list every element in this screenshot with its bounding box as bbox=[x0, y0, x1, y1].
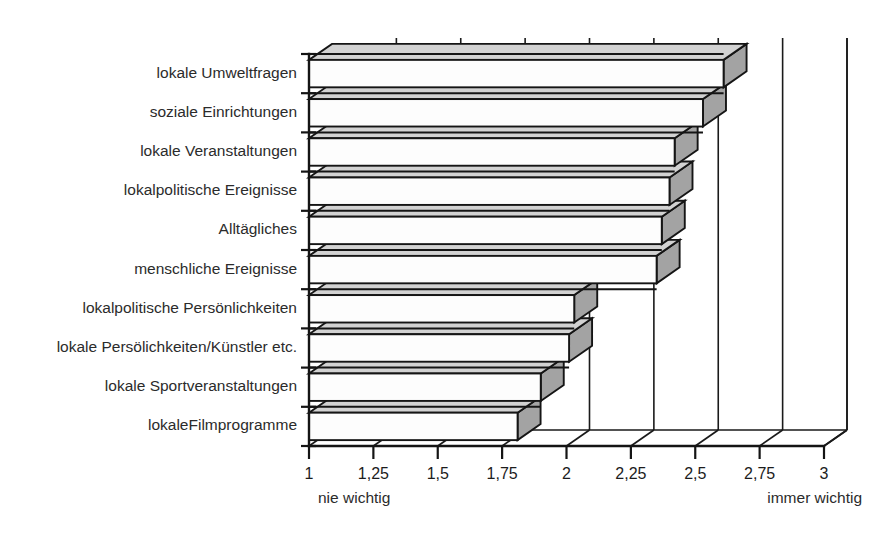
category-label-1: lokale Umweltfragen bbox=[157, 64, 297, 81]
bar-2 bbox=[309, 83, 726, 126]
bar-1 bbox=[309, 44, 747, 87]
category-label-8: lokale Persölichkeiten/Künstler etc. bbox=[57, 338, 297, 355]
x-tick-label-4: 1,75 bbox=[487, 465, 518, 482]
scale-anchor-right-label: immer wichtig bbox=[767, 489, 862, 506]
bar-10 bbox=[309, 397, 541, 440]
x-tick-label-2: 1,25 bbox=[358, 465, 389, 482]
category-label-9: lokale Sportveranstaltungen bbox=[105, 377, 297, 394]
x-tick-labels: 11,251,51,7522,252,52,753 bbox=[305, 465, 829, 482]
category-label-6: menschliche Ereignisse bbox=[134, 260, 297, 277]
x-tick-label-1: 1 bbox=[305, 465, 314, 482]
x-axis bbox=[309, 446, 824, 459]
scale-anchor-left-label: nie wichtig bbox=[318, 489, 390, 506]
chart-canvas: lokale Umweltfragensoziale Einrichtungen… bbox=[0, 0, 880, 541]
category-label-10: lokaleFilmprogramme bbox=[148, 416, 297, 433]
bar-front-face bbox=[309, 413, 518, 440]
grid-line bbox=[824, 38, 847, 446]
bar-front-face bbox=[309, 99, 703, 126]
bar-front-face bbox=[309, 60, 724, 87]
bar-6 bbox=[309, 240, 680, 283]
category-label-3: lokale Veranstaltungen bbox=[140, 142, 297, 159]
bar-9 bbox=[309, 357, 564, 400]
x-tick-label-3: 1,5 bbox=[427, 465, 449, 482]
bar-front-face bbox=[309, 256, 657, 283]
bar-series bbox=[309, 44, 747, 440]
category-label-7: lokalpolitische Persönlichkeiten bbox=[82, 299, 297, 316]
bar-7 bbox=[309, 279, 597, 322]
x-tick-label-7: 2,5 bbox=[684, 465, 706, 482]
bar-8 bbox=[309, 318, 592, 361]
bar-top-face bbox=[309, 44, 747, 60]
bar-front-face bbox=[309, 217, 662, 244]
bar-3 bbox=[309, 122, 698, 165]
bar-front-face bbox=[309, 373, 541, 400]
bar-chart-figure: lokale Umweltfragensoziale Einrichtungen… bbox=[0, 0, 880, 541]
bar-front-face bbox=[309, 138, 675, 165]
bar-4 bbox=[309, 161, 693, 204]
x-tick-label-8: 2,75 bbox=[744, 465, 775, 482]
bar-front-face bbox=[309, 334, 569, 361]
x-tick-label-9: 3 bbox=[820, 465, 829, 482]
category-label-4: lokalpolitische Ereignisse bbox=[124, 181, 297, 198]
category-axis-labels: lokale Umweltfragensoziale Einrichtungen… bbox=[57, 64, 298, 434]
category-label-2: soziale Einrichtungen bbox=[150, 103, 297, 120]
bar-5 bbox=[309, 201, 685, 244]
x-tick-label-5: 2 bbox=[562, 465, 571, 482]
category-label-5: Alltägliches bbox=[219, 220, 298, 237]
bar-front-face bbox=[309, 177, 670, 204]
bar-front-face bbox=[309, 295, 574, 322]
grid-line bbox=[760, 38, 783, 446]
x-tick-label-6: 2,25 bbox=[615, 465, 646, 482]
floor-right-edge bbox=[824, 430, 847, 446]
